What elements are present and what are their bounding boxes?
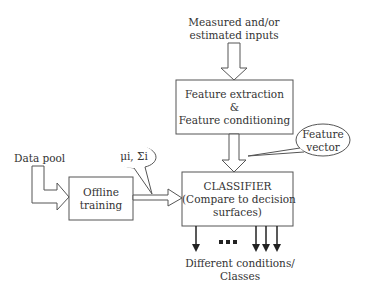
offline-box-label: Offline training: [69, 186, 133, 212]
offline-to-classifier-arrow: [133, 189, 182, 206]
data-pool-arrow: [32, 166, 69, 210]
inputs-line2: estimated inputs: [184, 29, 284, 42]
outputs-line1: Different conditions/: [180, 257, 300, 270]
outputs-label: Different conditions/ Classes: [180, 257, 300, 283]
inputs-label: Measured and/or estimated inputs: [184, 16, 284, 42]
feature-box-label: Feature extraction & Feature conditionin…: [176, 88, 293, 127]
offline-line2: training: [69, 199, 133, 212]
feature-line2: &: [176, 101, 293, 114]
input-arrow: [221, 43, 247, 80]
output-arrowhead: [252, 244, 260, 252]
inputs-line1: Measured and/or: [184, 16, 284, 29]
output-arrowhead: [262, 244, 270, 252]
ellipsis-dot: [233, 240, 237, 244]
output-arrowhead: [192, 244, 200, 252]
ellipsis-dot: [219, 240, 223, 244]
classifier-block-diagram: Measured and/or estimated inputs Feature…: [0, 0, 367, 295]
output-arrowhead: [273, 244, 281, 252]
ellipsis-dot: [226, 240, 230, 244]
feature-line1: Feature extraction: [176, 88, 293, 101]
feature-vector-line1: Feature: [298, 128, 348, 141]
outputs-line2: Classes: [180, 270, 300, 283]
feature-vector-line2: vector: [298, 141, 348, 154]
feature-line3: Feature conditioning: [176, 114, 293, 127]
classifier-line2: (Compare to decision: [182, 193, 293, 206]
classifier-box-label: CLASSIFIER (Compare to decision surfaces…: [182, 180, 293, 219]
feature-to-classifier-arrow: [222, 134, 246, 172]
classifier-line3: surfaces): [182, 206, 293, 219]
classifier-line1: CLASSIFIER: [182, 180, 293, 193]
feature-vector-callout-label: Feature vector: [298, 128, 348, 154]
offline-line1: Offline: [69, 186, 133, 199]
params-callout-label: μi, Σi: [113, 150, 155, 163]
data-pool-label: Data pool: [14, 152, 64, 165]
